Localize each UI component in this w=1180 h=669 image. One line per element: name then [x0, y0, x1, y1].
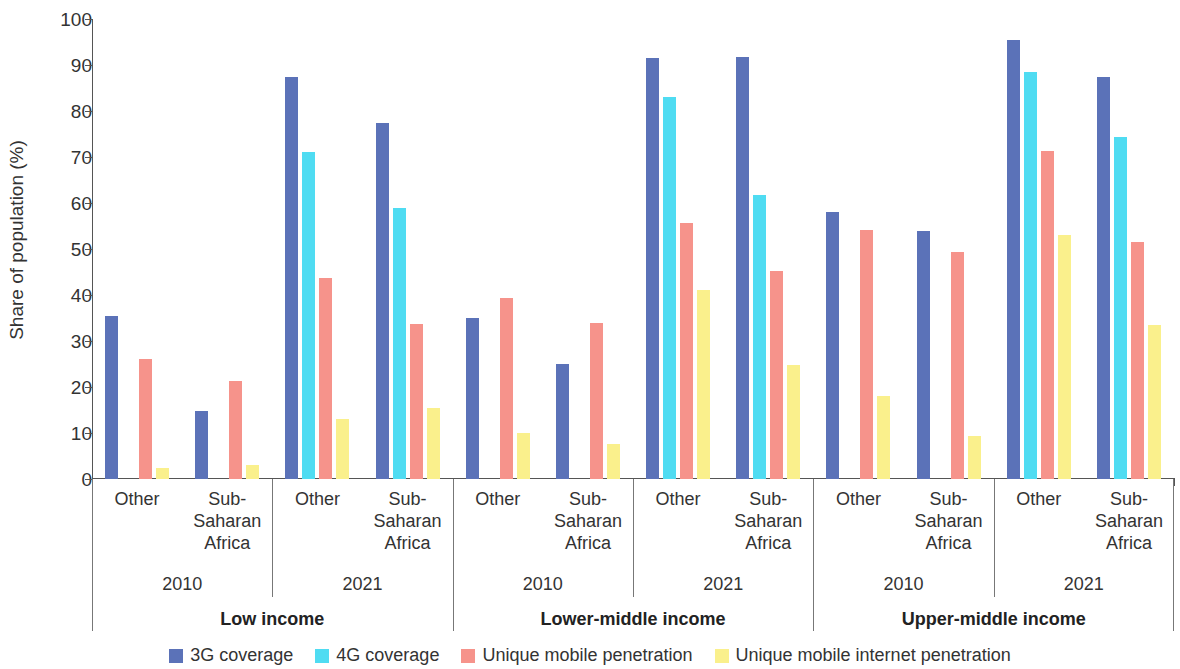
x-axis-year-label: 2010	[92, 574, 272, 595]
x-axis-region-label: Sub-SaharanAfrica	[723, 489, 813, 555]
x-axis-income-label: Low income	[92, 609, 453, 630]
x-axis-year-label: 2010	[453, 574, 633, 595]
bar-group	[723, 19, 813, 479]
bar	[968, 436, 981, 479]
y-axis-tick-label: 50	[34, 240, 92, 259]
x-axis-region-label: Other	[272, 489, 362, 511]
bar	[917, 231, 930, 479]
x-axis-year-label: 2021	[272, 574, 452, 595]
bar-group	[633, 19, 723, 479]
x-axis-region-label: Other	[92, 489, 182, 511]
bar	[195, 411, 208, 479]
chart-legend: 3G coverage4G coverageUnique mobile pene…	[0, 645, 1180, 666]
bar-group	[182, 19, 272, 479]
bar	[877, 396, 890, 479]
bar	[826, 212, 839, 479]
bar	[607, 444, 620, 479]
y-axis-tick-label: 20	[34, 378, 92, 397]
legend-item[interactable]: Unique mobile penetration	[461, 645, 692, 666]
bar	[770, 271, 783, 479]
legend-label: Unique mobile penetration	[482, 645, 692, 666]
x-axis-year-label: 2010	[813, 574, 993, 595]
bar-group	[363, 19, 453, 479]
y-axis-tick-label: 100	[34, 10, 92, 29]
bar	[556, 364, 569, 479]
y-axis-tick-label: 60	[34, 194, 92, 213]
bar	[951, 252, 964, 479]
bar	[680, 223, 693, 479]
bar	[319, 278, 332, 479]
bar	[466, 318, 479, 479]
bar	[1024, 72, 1037, 479]
y-axis-tick-label: 80	[34, 102, 92, 121]
bar	[1148, 325, 1161, 479]
x-axis-region-label: Sub-SaharanAfrica	[543, 489, 633, 555]
bar	[500, 298, 513, 479]
legend-item[interactable]: 4G coverage	[315, 645, 439, 666]
axis-separator	[994, 479, 995, 597]
x-axis-region-label: Sub-SaharanAfrica	[182, 489, 272, 555]
legend-swatch-icon	[461, 649, 475, 663]
bar	[663, 97, 676, 479]
bar-group	[543, 19, 633, 479]
bar	[105, 316, 118, 479]
bar	[646, 58, 659, 479]
bar	[753, 195, 766, 479]
bar	[1007, 40, 1020, 479]
bar-group	[92, 19, 182, 479]
bar	[156, 468, 169, 480]
y-axis-tick-label: 40	[34, 286, 92, 305]
bar	[590, 323, 603, 479]
plot-area	[92, 19, 1172, 479]
bar	[1058, 235, 1071, 479]
x-axis-region-label: Sub-SaharanAfrica	[363, 489, 453, 555]
bar	[376, 123, 389, 479]
axis-separator	[813, 479, 814, 631]
legend-item[interactable]: Unique mobile internet penetration	[715, 645, 1011, 666]
bar-group	[1084, 19, 1174, 479]
y-axis-tick-label: 0	[34, 470, 92, 489]
x-axis-year-label: 2021	[633, 574, 813, 595]
bar	[1131, 242, 1144, 479]
axis-separator	[272, 479, 273, 597]
x-axis-region-label: Other	[994, 489, 1084, 511]
bar	[860, 230, 873, 479]
bar	[302, 152, 315, 479]
bar	[1097, 77, 1110, 479]
legend-label: 3G coverage	[190, 645, 293, 666]
x-axis-region-label: Other	[453, 489, 543, 511]
legend-swatch-icon	[169, 649, 183, 663]
bar	[736, 57, 749, 479]
legend-label: Unique mobile internet penetration	[736, 645, 1011, 666]
y-axis-tick-label: 10	[34, 424, 92, 443]
bar-group	[453, 19, 543, 479]
x-axis-income-label: Lower-middle income	[453, 609, 814, 630]
bar-group	[904, 19, 994, 479]
legend-swatch-icon	[315, 649, 329, 663]
axis-separator	[453, 479, 454, 631]
x-axis-income-label: Upper-middle income	[813, 609, 1174, 630]
y-axis-tick-label: 90	[34, 56, 92, 75]
bar	[410, 324, 423, 479]
x-axis-year-label: 2021	[994, 574, 1174, 595]
y-axis-tick-label: 30	[34, 332, 92, 351]
bar	[336, 419, 349, 479]
x-axis-tick-mark	[1174, 478, 1175, 486]
bar	[229, 381, 242, 479]
bar	[787, 365, 800, 479]
bar	[139, 359, 152, 479]
bar	[285, 77, 298, 480]
axis-separator	[1173, 479, 1174, 631]
bar-group	[994, 19, 1084, 479]
bar-chart: Share of population (%) 0102030405060708…	[0, 0, 1180, 669]
y-axis-tick-label: 70	[34, 148, 92, 167]
axis-separator	[92, 479, 93, 631]
bar	[697, 290, 710, 479]
x-axis-region-label: Other	[633, 489, 723, 511]
x-axis-region-label: Sub-SaharanAfrica	[1084, 489, 1174, 555]
x-axis-labels: OtherSub-SaharanAfricaOtherSub-SaharanAf…	[92, 479, 1174, 634]
legend-item[interactable]: 3G coverage	[169, 645, 293, 666]
x-axis-region-label: Sub-SaharanAfrica	[904, 489, 994, 555]
bar-group	[813, 19, 903, 479]
bar	[1114, 137, 1127, 479]
